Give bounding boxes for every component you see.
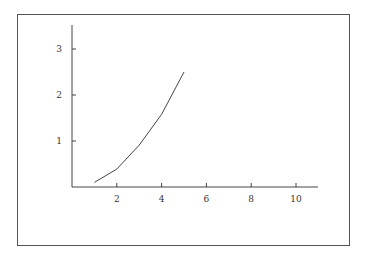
x-ticks: 246810 (114, 183, 302, 204)
y-tick-label: 2 (56, 90, 62, 100)
x-tick-label: 6 (204, 194, 210, 204)
x-tick-label: 2 (114, 194, 120, 204)
y-tick-label: 1 (56, 136, 62, 146)
y-tick-label: 3 (56, 44, 62, 54)
x-tick-label: 10 (290, 194, 302, 204)
data-line (94, 72, 184, 182)
line-chart: 246810 123 (0, 0, 372, 260)
x-tick-label: 4 (159, 194, 165, 204)
x-tick-label: 8 (248, 194, 254, 204)
y-ticks: 123 (56, 44, 76, 146)
